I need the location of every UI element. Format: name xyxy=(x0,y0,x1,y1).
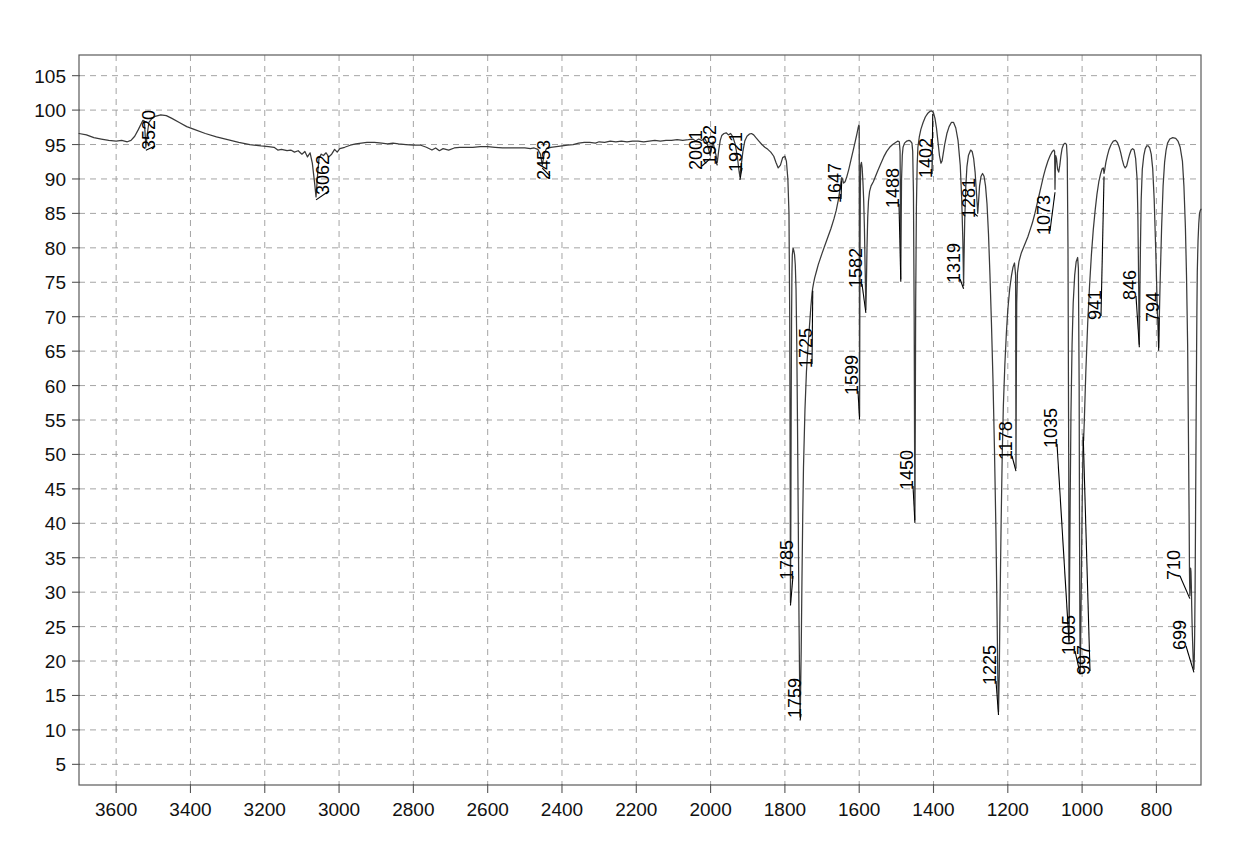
peak-label-1488: 1488 xyxy=(883,168,903,208)
x-tick-label: 1200 xyxy=(987,799,1029,820)
y-tick-label: 25 xyxy=(45,617,66,638)
peak-label-1035: 1035 xyxy=(1041,408,1061,448)
x-tick-label: 3000 xyxy=(318,799,360,820)
peak-label-1982: 1982 xyxy=(700,125,720,165)
x-tick-label: 1400 xyxy=(912,799,954,820)
x-tick-label: 2200 xyxy=(615,799,657,820)
y-tick-label: 85 xyxy=(45,203,66,224)
y-tick-label: 30 xyxy=(45,582,66,603)
y-tick-label: 55 xyxy=(45,410,66,431)
peak-label-710: 710 xyxy=(1164,550,1184,580)
peak-label-1225: 1225 xyxy=(980,645,1000,685)
peak-label-794: 794 xyxy=(1143,292,1163,322)
peak-label-846: 846 xyxy=(1120,270,1140,300)
y-tick-label: 80 xyxy=(45,238,66,259)
y-tick-label: 45 xyxy=(45,479,66,500)
y-tick-label: 5 xyxy=(55,754,66,775)
peak-label-1402: 1402 xyxy=(916,138,936,178)
peak-label-3062: 3062 xyxy=(313,155,333,195)
y-tick-label: 95 xyxy=(45,135,66,156)
x-tick-label: 800 xyxy=(1141,799,1173,820)
spectrum-plot-area: 1051009590858075706560555045403530252015… xyxy=(0,0,1251,854)
x-tick-label: 3400 xyxy=(169,799,211,820)
peak-label-1281: 1281 xyxy=(959,178,979,218)
x-tick-label: 2800 xyxy=(392,799,434,820)
y-tick-label: 100 xyxy=(34,100,66,121)
y-tick-label: 65 xyxy=(45,341,66,362)
y-tick-label: 70 xyxy=(45,307,66,328)
peak-leader-line xyxy=(1083,437,1090,671)
y-tick-label: 105 xyxy=(34,66,66,87)
x-tick-label: 2400 xyxy=(541,799,583,820)
peak-label-1921: 1921 xyxy=(726,132,746,172)
peak-label-1450: 1450 xyxy=(897,450,917,490)
x-tick-label: 2600 xyxy=(467,799,509,820)
peak-label-1582: 1582 xyxy=(846,248,866,288)
peak-label-2453: 2453 xyxy=(534,140,554,180)
y-tick-label: 10 xyxy=(45,720,66,741)
y-tick-label: 50 xyxy=(45,444,66,465)
x-tick-label: 3600 xyxy=(95,799,137,820)
peak-label-1785: 1785 xyxy=(777,540,797,580)
grid-lines xyxy=(79,55,1201,785)
peak-leader-line xyxy=(1057,444,1069,643)
peak-label-1647: 1647 xyxy=(825,163,845,203)
x-tick-label: 2000 xyxy=(689,799,731,820)
peak-label-699: 699 xyxy=(1170,620,1190,650)
y-tick-label: 15 xyxy=(45,685,66,706)
peak-label-1725: 1725 xyxy=(796,328,816,368)
y-tick-label: 20 xyxy=(45,651,66,672)
peak-annotations: 3520306224532001198219211785175917251647… xyxy=(139,110,1194,721)
peak-label-941: 941 xyxy=(1085,290,1105,320)
peak-label-1759: 1759 xyxy=(785,678,805,718)
peak-label-1073: 1073 xyxy=(1034,195,1054,235)
x-tick-label: 3200 xyxy=(244,799,286,820)
x-tick-label: 1800 xyxy=(764,799,806,820)
peak-label-3520: 3520 xyxy=(139,110,159,150)
y-tick-label: 90 xyxy=(45,169,66,190)
peak-label-1599: 1599 xyxy=(842,355,862,395)
y-tick-label: 35 xyxy=(45,548,66,569)
peak-label-1178: 1178 xyxy=(996,421,1016,460)
y-tick-label: 75 xyxy=(45,272,66,293)
x-tick-label: 1600 xyxy=(838,799,880,820)
peak-label-997: 997 xyxy=(1074,645,1094,675)
peak-label-1319: 1319 xyxy=(944,243,964,283)
x-tick-label: 1000 xyxy=(1061,799,1103,820)
y-tick-label: 60 xyxy=(45,376,66,397)
x-axis-tick-labels: 3600340032003000280026002400220020001800… xyxy=(95,799,1172,820)
y-tick-label: 40 xyxy=(45,513,66,534)
y-axis-tick-labels: 1051009590858075706560555045403530252015… xyxy=(34,66,66,776)
ir-spectrum-chart: 1051009590858075706560555045403530252015… xyxy=(0,0,1251,854)
